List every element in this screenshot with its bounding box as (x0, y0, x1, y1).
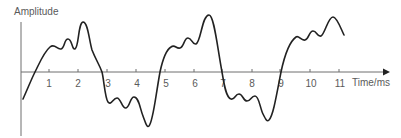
x-axis-arrow-icon (383, 69, 390, 76)
waveform-chart: Amplitude Time/ms 1 2 3 4 5 6 7 8 9 10 1… (0, 0, 401, 138)
tick-label: 6 (192, 78, 198, 89)
y-axis-label: Amplitude (14, 6, 59, 17)
tick-label: 2 (75, 78, 81, 89)
tick-label: 11 (335, 78, 346, 89)
tick-label: 10 (305, 78, 317, 89)
x-axis-label: Time/ms (352, 77, 390, 88)
tick-label: 5 (163, 78, 169, 89)
waveform-line (23, 15, 344, 127)
tick-label: 4 (134, 78, 140, 89)
tick-label: 8 (249, 78, 255, 89)
tick-label: 3 (105, 78, 111, 89)
x-tick-labels: 1 2 3 4 5 6 7 8 9 10 11 (46, 78, 345, 89)
tick-label: 1 (46, 78, 52, 89)
